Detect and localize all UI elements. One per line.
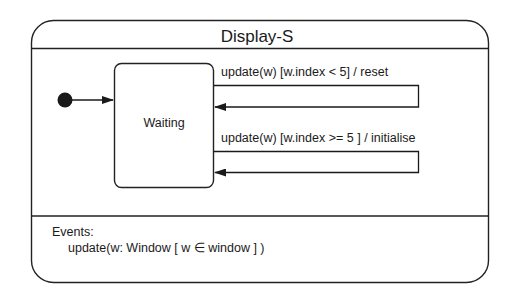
event-item: update(w: Window [ w ∈ window ] ) — [68, 240, 265, 255]
state-waiting-label: Waiting — [114, 116, 214, 130]
self-transition-initialise-arrow — [214, 152, 419, 173]
events-heading: Events: — [52, 225, 94, 239]
transition-label-reset: update(w) [w.index < 5] / reset — [221, 65, 388, 79]
self-transition-reset-arrow — [214, 86, 419, 108]
initial-state-dot — [58, 93, 73, 108]
superstate-title: Display-S — [0, 27, 514, 47]
transition-label-initialise: update(w) [w.index >= 5 ] / initialise — [221, 131, 416, 145]
